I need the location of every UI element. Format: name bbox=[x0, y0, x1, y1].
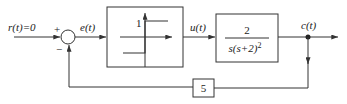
input-signal-label: r(t)=0 bbox=[8, 21, 36, 34]
error-signal-label: e(t) bbox=[80, 21, 96, 34]
block-diagram: r(t)=0 + − e(t) 1 u(t) 2 s(s+2)2 c(t) 5 bbox=[0, 0, 347, 104]
feedback-gain-label: 5 bbox=[201, 82, 207, 94]
feedback-line-right bbox=[214, 62, 308, 88]
control-signal-label: u(t) bbox=[190, 21, 206, 34]
plant-numerator: 2 bbox=[244, 24, 250, 36]
relay-level-label: 1 bbox=[136, 17, 142, 29]
plant-block: 2 s(s+2)2 bbox=[216, 14, 278, 62]
summing-junction bbox=[61, 30, 75, 44]
output-signal-label: c(t) bbox=[301, 19, 317, 32]
plus-sign: + bbox=[54, 23, 60, 35]
plant-denominator: s(s+2)2 bbox=[229, 41, 262, 55]
relay-block: 1 bbox=[107, 7, 183, 67]
minus-sign: − bbox=[56, 43, 62, 55]
